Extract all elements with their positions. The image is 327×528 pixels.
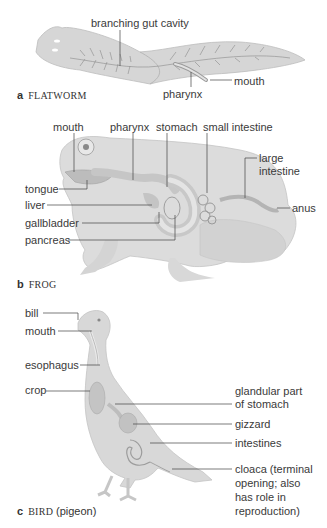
label-bird-gizzard: gizzard <box>235 418 270 430</box>
label-frog-small-intestine: small intestine <box>203 121 273 133</box>
label-branching-gut-cavity: branching gut cavity <box>91 17 189 29</box>
label-bird-cloaca-line1: cloaca (terminal <box>235 463 313 475</box>
label-flatworm-pharynx: pharynx <box>163 88 202 100</box>
flatworm-illustration <box>36 27 305 84</box>
label-frog-liver: liver <box>25 199 45 211</box>
label-bird-cloaca-line3: has role in <box>235 491 286 503</box>
label-frog-large-intestine-line2: intestine <box>259 165 300 177</box>
label-bird-glandular-line2: of stomach <box>235 398 289 410</box>
caption-name: FLATWORM <box>28 90 87 101</box>
caption-name: FROG <box>29 279 57 290</box>
caption-letter: a <box>17 89 23 101</box>
label-bird-mouth: mouth <box>25 325 56 337</box>
label-bird-crop: crop <box>25 384 46 396</box>
caption-letter: c <box>17 505 23 517</box>
bird-illustration <box>78 310 212 500</box>
label-bird-esophagus: esophagus <box>25 359 79 371</box>
label-bird-cloaca-line4: reproduction) <box>235 505 300 517</box>
label-bird-intestines: intestines <box>235 437 281 449</box>
label-frog-mouth: mouth <box>53 121 84 133</box>
label-frog-pharynx: pharynx <box>110 121 149 133</box>
label-frog-large-intestine-line1: large <box>259 152 283 164</box>
caption-letter: b <box>17 278 24 290</box>
label-frog-anus: anus <box>292 202 316 214</box>
caption-frog: bFROG <box>17 278 57 290</box>
label-flatworm-mouth: mouth <box>234 75 265 87</box>
label-frog-pancreas: pancreas <box>25 234 70 246</box>
label-frog-stomach: stomach <box>156 121 198 133</box>
caption-flatworm: aFLATWORM <box>17 89 87 101</box>
label-bird-cloaca-line2: opening; also <box>235 477 300 489</box>
label-frog-gallbladder: gallbladder <box>25 217 79 229</box>
label-bird-bill: bill <box>25 307 38 319</box>
label-frog-tongue: tongue <box>25 183 59 195</box>
caption-name: BIRD <box>28 506 53 517</box>
caption-subtitle: (pigeon) <box>56 505 96 517</box>
caption-bird: cBIRD (pigeon) <box>17 505 96 517</box>
label-bird-glandular-line1: glandular part <box>235 385 302 397</box>
